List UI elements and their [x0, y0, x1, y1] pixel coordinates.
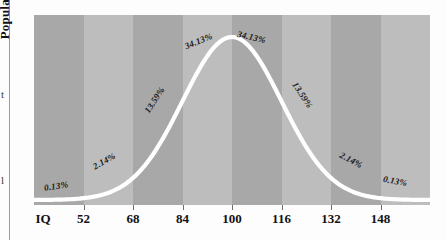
x-axis: IQ526884100116132148: [34, 205, 430, 235]
cropped-text-fragment: l: [1, 175, 4, 186]
page-canvas: t l Population 0.13%2.14%13.59%34.13%34.…: [0, 0, 447, 240]
x-axis-label: 116: [272, 211, 291, 227]
x-axis-tick: [133, 205, 134, 210]
x-axis-label: 132: [321, 211, 341, 227]
cropped-text-fragment: t: [1, 89, 4, 100]
x-axis-label: 68: [127, 211, 140, 227]
x-axis-tick: [331, 205, 332, 210]
x-axis-tick: [84, 205, 85, 210]
x-axis-label: 148: [371, 211, 391, 227]
x-axis-tick: [282, 205, 283, 210]
x-axis-title: IQ: [35, 211, 50, 227]
y-axis-title: Population: [0, 0, 13, 68]
x-axis-label: 52: [77, 211, 90, 227]
x-axis-label: 100: [222, 211, 242, 227]
bell-curve-line: [34, 15, 430, 205]
x-axis-tick: [381, 205, 382, 210]
x-axis-tick: [183, 205, 184, 210]
x-axis-label: 84: [176, 211, 189, 227]
x-axis-tick: [232, 205, 233, 210]
chart-plot-area: 0.13%2.14%13.59%34.13%34.13%13.59%2.14%0…: [34, 15, 430, 205]
